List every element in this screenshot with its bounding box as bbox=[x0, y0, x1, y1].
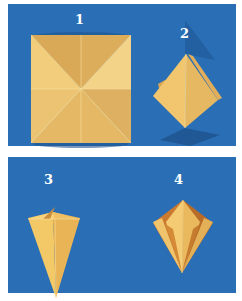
step-3-kite bbox=[28, 207, 80, 298]
step-3-number: 3 bbox=[44, 173, 53, 186]
origami-illustrations bbox=[0, 0, 242, 301]
step-2-number: 2 bbox=[180, 27, 189, 40]
step-1-number: 1 bbox=[75, 13, 84, 26]
step-4-petal bbox=[153, 200, 213, 273]
step-1-square bbox=[31, 32, 131, 148]
step-4-number: 4 bbox=[174, 173, 183, 186]
